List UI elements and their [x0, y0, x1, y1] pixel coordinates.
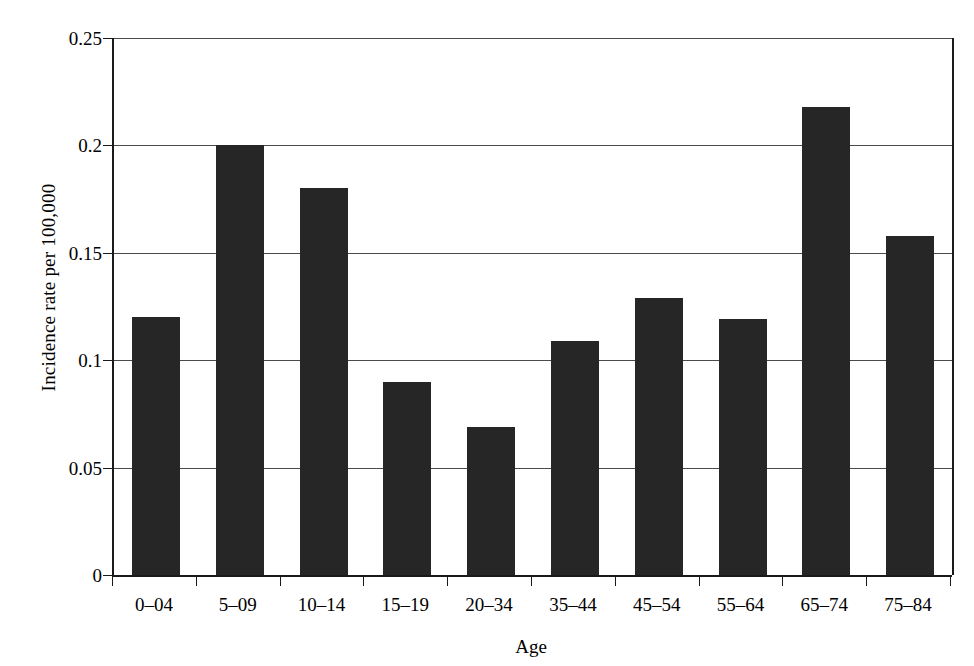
- x-axis-title: Age: [112, 636, 950, 658]
- bar: [383, 382, 431, 575]
- bar-group: [114, 38, 952, 575]
- y-tick-label: 0.25: [32, 29, 102, 48]
- y-tick-mark: [103, 38, 112, 39]
- y-tick-label: 0.05: [32, 458, 102, 477]
- y-tick-mark: [103, 468, 112, 469]
- bar: [886, 236, 934, 575]
- x-tick-mark: [615, 575, 616, 586]
- bar: [551, 341, 599, 575]
- bar: [132, 317, 180, 575]
- x-tick-label: 20–34: [444, 594, 534, 616]
- bar: [467, 427, 515, 575]
- x-tick-label: 35–44: [528, 594, 618, 616]
- y-tick-label: 0: [32, 566, 102, 585]
- x-tick-mark: [531, 575, 532, 586]
- bar: [216, 145, 264, 575]
- x-tick-label: 0–04: [109, 594, 199, 616]
- bar: [719, 319, 767, 575]
- bar: [802, 107, 850, 575]
- x-tick-label: 10–14: [277, 594, 367, 616]
- x-tick-label: 5–09: [193, 594, 283, 616]
- x-tick-mark: [866, 575, 867, 586]
- bar: [300, 188, 348, 575]
- x-tick-label: 45–54: [612, 594, 702, 616]
- x-tick-mark: [699, 575, 700, 586]
- x-tick-mark: [196, 575, 197, 586]
- y-tick-mark: [103, 145, 112, 146]
- y-tick-mark: [103, 253, 112, 254]
- x-tick-mark: [950, 575, 951, 586]
- y-tick-label: 0.2: [32, 136, 102, 155]
- x-tick-mark: [363, 575, 364, 586]
- y-tick-label-group: 00.050.10.150.20.25: [28, 0, 102, 666]
- y-tick-mark: [103, 575, 112, 576]
- x-tick-mark: [112, 575, 113, 586]
- x-tick-label: 55–64: [696, 594, 786, 616]
- x-tick-mark: [782, 575, 783, 586]
- y-tick-mark: [103, 360, 112, 361]
- y-tick-label: 0.15: [32, 243, 102, 262]
- x-tick-mark: [447, 575, 448, 586]
- chart-page: Incidence rate per 100,000 00.050.10.150…: [0, 0, 974, 666]
- x-tick-mark: [280, 575, 281, 586]
- bar: [635, 298, 683, 575]
- x-tick-label: 75–84: [863, 594, 953, 616]
- plot-area: [112, 38, 954, 575]
- x-tick-label: 15–19: [360, 594, 450, 616]
- x-tick-label: 65–74: [779, 594, 869, 616]
- y-tick-label: 0.1: [32, 351, 102, 370]
